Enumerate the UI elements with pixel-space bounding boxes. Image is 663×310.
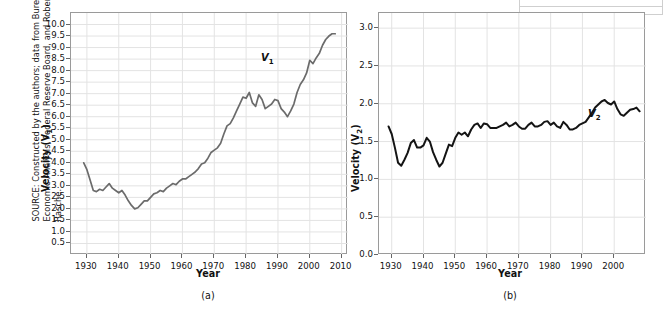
x-tick-mark: [245, 254, 246, 258]
y-tick-mark: [66, 116, 70, 117]
y-tick-label: 8.0: [39, 65, 65, 75]
y-tick-mark: [66, 185, 70, 186]
x-tick-mark: [118, 254, 119, 258]
y-tick-label: 7.0: [39, 88, 65, 98]
y-tick-label: 10.0: [39, 19, 65, 29]
x-tick-label: 1930: [380, 261, 402, 271]
x-tick-label: 1940: [412, 261, 434, 271]
y-tick-label: 7.5: [39, 76, 65, 86]
series-line-V2: [389, 100, 640, 167]
x-tick-mark: [581, 254, 582, 258]
y-tick-mark: [66, 242, 70, 243]
x-tick-mark: [150, 254, 151, 258]
plot-area-a: [70, 12, 347, 254]
y-axis-title-b-end: ): [350, 124, 361, 128]
panel-caption-a: (a): [201, 290, 214, 301]
x-tick-label: 1980: [234, 261, 256, 271]
x-axis-title-b: Year: [498, 268, 522, 279]
y-tick-label: 6.0: [39, 111, 65, 121]
x-tick-label: 2010: [330, 261, 352, 271]
plot-area-b: [378, 12, 645, 254]
x-tick-label: 1950: [139, 261, 161, 271]
chart-b-canvas: [379, 13, 644, 253]
x-tick-mark: [309, 254, 310, 258]
series-label-v1-text: V: [261, 52, 269, 63]
x-tick-label: 1960: [170, 261, 192, 271]
y-tick-label: 0.5: [347, 211, 373, 221]
y-tick-mark: [66, 35, 70, 36]
y-tick-label: 2.5: [39, 191, 65, 201]
chart-a-canvas: [71, 13, 346, 253]
series-label-v1-sub: 1: [269, 58, 274, 66]
x-tick-mark: [550, 254, 551, 258]
y-tick-mark: [66, 150, 70, 151]
y-tick-label: 6.5: [39, 99, 65, 109]
y-tick-label: 2.0: [347, 98, 373, 108]
series-label-v1: V1: [261, 52, 274, 66]
y-tick-label: 2.5: [347, 60, 373, 70]
y-tick-mark: [66, 81, 70, 82]
x-tick-label: 1980: [539, 261, 561, 271]
y-tick-mark: [66, 219, 70, 220]
y-tick-mark: [66, 47, 70, 48]
x-tick-mark: [486, 254, 487, 258]
y-tick-label: 0.5: [39, 237, 65, 247]
y-tick-label: 8.5: [39, 53, 65, 63]
y-tick-mark: [374, 65, 378, 66]
x-tick-mark: [423, 254, 424, 258]
y-tick-mark: [66, 139, 70, 140]
x-tick-mark: [613, 254, 614, 258]
y-axis-title-b: Velocity (V2): [350, 124, 364, 192]
panel-b: 0.00.51.01.52.02.53.01930194019501960197…: [360, 0, 662, 310]
y-tick-mark: [66, 127, 70, 128]
x-tick-label: 1930: [75, 261, 97, 271]
y-tick-mark: [374, 216, 378, 217]
series-label-v2: V2: [588, 108, 601, 122]
x-tick-mark: [518, 254, 519, 258]
x-tick-label: 1990: [570, 261, 592, 271]
y-axis-title-a-text: Velocity (V: [40, 134, 51, 192]
y-axis-title-b-sub: 2: [356, 129, 364, 134]
y-tick-mark: [66, 58, 70, 59]
x-tick-label: 1990: [266, 261, 288, 271]
series-label-v2-sub: 2: [596, 114, 601, 122]
x-tick-mark: [341, 254, 342, 258]
y-tick-label: 1.0: [39, 226, 65, 236]
x-tick-mark: [391, 254, 392, 258]
x-tick-label: 1940: [107, 261, 129, 271]
y-tick-label: 1.5: [39, 214, 65, 224]
series-line-V1: [84, 34, 336, 209]
y-tick-label: 9.5: [39, 30, 65, 40]
x-tick-label: 2000: [298, 261, 320, 271]
y-tick-mark: [66, 196, 70, 197]
y-tick-mark: [66, 104, 70, 105]
x-axis-title-a: Year: [196, 268, 220, 279]
y-tick-label: 9.0: [39, 42, 65, 52]
y-tick-mark: [374, 141, 378, 142]
y-axis-title-a-end: ): [40, 124, 51, 128]
y-axis-title-a: Velocity (V1): [40, 124, 54, 192]
x-tick-mark: [181, 254, 182, 258]
y-axis-title-a-sub: 1: [46, 129, 54, 134]
y-tick-mark: [66, 208, 70, 209]
y-tick-mark: [66, 231, 70, 232]
x-tick-mark: [213, 254, 214, 258]
x-tick-mark: [86, 254, 87, 258]
y-tick-mark: [66, 162, 70, 163]
x-tick-label: 1960: [475, 261, 497, 271]
y-tick-label: 3.0: [347, 22, 373, 32]
y-tick-mark: [66, 24, 70, 25]
y-tick-mark: [66, 93, 70, 94]
y-tick-mark: [374, 254, 378, 255]
x-tick-mark: [454, 254, 455, 258]
y-tick-mark: [374, 178, 378, 179]
x-tick-label: 2000: [602, 261, 624, 271]
y-tick-mark: [374, 103, 378, 104]
y-tick-mark: [374, 27, 378, 28]
x-tick-mark: [277, 254, 278, 258]
series-label-v2-text: V: [588, 108, 596, 119]
x-tick-label: 1950: [443, 261, 465, 271]
y-axis-title-b-text: Velocity (V: [350, 134, 361, 192]
y-tick-label: 2.0: [39, 203, 65, 213]
